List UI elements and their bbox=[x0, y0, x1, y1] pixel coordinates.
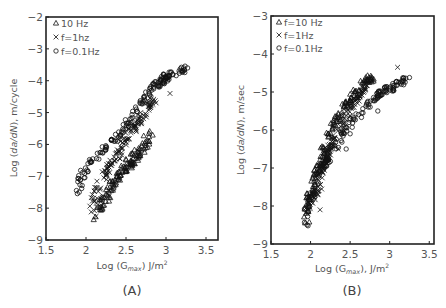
data-point-circle bbox=[77, 173, 81, 177]
x-axis-title-b: Log (Gmax), J/m2 bbox=[315, 262, 389, 276]
legend-marker-circle-icon bbox=[54, 49, 58, 53]
scatter-points-a bbox=[74, 64, 190, 222]
data-point-circle bbox=[361, 107, 365, 111]
y-tick-label: −3 bbox=[253, 10, 268, 22]
data-point-circle bbox=[376, 109, 380, 113]
legend-a: 10 Hzf=1hzf=0.1Hz bbox=[53, 18, 99, 57]
legend-label: f=0.1Hz bbox=[284, 43, 323, 54]
data-point-x bbox=[318, 207, 323, 212]
data-point-circle bbox=[350, 125, 354, 129]
data-point-x bbox=[95, 179, 100, 184]
y-tick-label: −6 bbox=[28, 138, 44, 150]
legend-label: f=0.1Hz bbox=[61, 46, 100, 57]
data-point-x bbox=[168, 91, 173, 96]
data-point-circle bbox=[348, 132, 352, 136]
y-tick-label: −2 bbox=[28, 11, 43, 23]
x-tick-label: 2.5 bbox=[342, 248, 359, 260]
panel-label-b: (B) bbox=[342, 283, 361, 298]
x-tick-label: 2 bbox=[307, 248, 314, 260]
y-axis-title-a: Log (da/dN), m/cycle bbox=[8, 79, 19, 178]
y-tick-label: −5 bbox=[28, 107, 43, 119]
scatter-points-b bbox=[302, 65, 412, 228]
chart-panel-a: −2−3−4−5−6−7−8−9 1.522.533.5 10 Hzf=1hzf… bbox=[8, 11, 218, 298]
chart-panel-b: −3−4−5−6−7−8−9 1.522.533.5 f=10 Hzf=1Hzf… bbox=[235, 10, 438, 298]
x-axis-title-a: Log (Gmax) J/m2 bbox=[96, 259, 167, 273]
data-point-triangle bbox=[141, 133, 146, 138]
x-tick-label: 2.5 bbox=[118, 244, 135, 256]
legend-marker-triangle-icon bbox=[276, 19, 281, 24]
panel-label-a: (A) bbox=[122, 283, 141, 298]
data-point-x bbox=[395, 65, 400, 70]
x-tick-label: 2 bbox=[83, 244, 90, 256]
legend-label: 10 Hz bbox=[61, 18, 88, 29]
y-tick-label: −7 bbox=[28, 170, 43, 182]
legend-marker-triangle-icon bbox=[53, 20, 58, 25]
data-point-circle bbox=[344, 147, 348, 151]
legend-label: f=10 Hz bbox=[284, 17, 323, 28]
x-tick-label: 3 bbox=[163, 244, 170, 256]
legend-label: f=1hz bbox=[61, 32, 89, 43]
y-tick-label: −4 bbox=[253, 48, 269, 60]
x-tick-label: 1.5 bbox=[263, 248, 280, 260]
legend-marker-x-icon bbox=[54, 35, 59, 40]
y-tick-label: −8 bbox=[253, 200, 268, 212]
x-tick-label: 3.5 bbox=[421, 248, 438, 260]
y-tick-label: −3 bbox=[28, 43, 43, 55]
y-tick-label: −6 bbox=[253, 124, 269, 136]
y-tick-label: −5 bbox=[253, 86, 268, 98]
data-point-x bbox=[104, 177, 109, 182]
data-point-circle bbox=[339, 138, 343, 142]
data-point-x bbox=[113, 157, 118, 162]
data-point-circle bbox=[359, 115, 363, 119]
data-point-triangle bbox=[91, 217, 96, 222]
y-tick-label: −7 bbox=[253, 162, 268, 174]
legend-label: f=1Hz bbox=[284, 30, 313, 41]
data-point-x bbox=[87, 204, 92, 209]
x-tick-label: 1.5 bbox=[38, 244, 55, 256]
figure: −2−3−4−5−6−7−8−9 1.522.533.5 10 Hzf=1hzf… bbox=[0, 0, 446, 308]
y-tick-label: −8 bbox=[28, 202, 43, 214]
legend-marker-circle-icon bbox=[277, 46, 281, 50]
y-tick-label: −4 bbox=[28, 75, 44, 87]
legend-marker-x-icon bbox=[277, 33, 282, 38]
x-tick-label: 3.5 bbox=[198, 244, 215, 256]
y-axis-title-b: Log (da/dN), m/sec bbox=[235, 85, 246, 175]
x-tick-label: 3 bbox=[386, 248, 393, 260]
legend-b: f=10 Hzf=1Hzf=0.1Hz bbox=[276, 17, 322, 54]
